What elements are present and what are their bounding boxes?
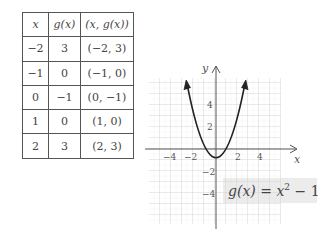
y-tick-4: 4 xyxy=(207,100,213,110)
y-tick-neg4: −4 xyxy=(202,189,216,199)
x-axis-label: x xyxy=(294,153,301,166)
grid xyxy=(149,78,281,224)
equation-prefix: g(x) = x xyxy=(228,183,284,199)
x-tick-neg2: −2 xyxy=(184,152,197,162)
x-tick-4: 4 xyxy=(257,152,263,162)
x-tick-2: 2 xyxy=(235,152,241,162)
y-tick-2: 2 xyxy=(207,122,213,132)
function-equation-label: g(x) = x2 − 1 xyxy=(228,182,319,199)
y-axis-label: y xyxy=(201,62,209,75)
y-tick-neg2: −2 xyxy=(202,167,215,177)
equation-suffix: − 1 xyxy=(290,183,319,199)
x-tick-neg4: −4 xyxy=(163,152,177,162)
